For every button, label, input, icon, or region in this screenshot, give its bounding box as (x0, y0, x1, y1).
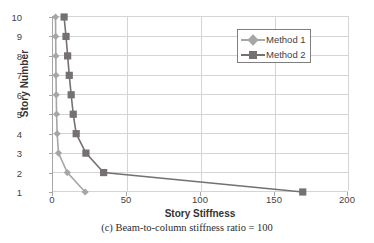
figure-caption: (c) Beam-to-column stiffness ratio = 100 (0, 222, 374, 233)
gridline-vertical (127, 16, 128, 191)
y-tick-label-3: 3 (0, 149, 22, 159)
x-axis-title: Story Stiffness (52, 208, 348, 219)
x-tick-label-0: 0 (32, 195, 72, 205)
x-tick-label-200: 200 (327, 195, 367, 205)
legend-entry-method-1[interactable]: Method 1 (241, 32, 307, 47)
legend-label-method-2: Method 2 (265, 50, 306, 60)
x-tick-label-150: 150 (254, 195, 294, 205)
square-marker-icon (241, 50, 265, 60)
x-tick-label-50: 50 (106, 195, 146, 205)
y-tick-label-6: 6 (0, 91, 22, 101)
x-tick-label-100: 100 (180, 195, 220, 205)
y-tick-label-1: 1 (0, 188, 22, 198)
gridline-vertical (348, 16, 349, 191)
y-tick-label-5: 5 (0, 110, 22, 120)
y-tick-label-7: 7 (0, 71, 22, 81)
legend-entry-method-2[interactable]: Method 2 (241, 47, 307, 62)
legend: Method 1 Method 2 (237, 29, 311, 63)
y-tick-label-9: 9 (0, 32, 22, 42)
y-tick-label-4: 4 (0, 130, 22, 140)
figure-chart-story-stiffness: Story Number 10 9 8 7 6 5 4 3 2 1 0 50 (0, 0, 374, 243)
gridline-vertical (201, 16, 202, 191)
diamond-marker-icon (241, 35, 265, 45)
legend-label-method-1: Method 1 (265, 35, 306, 45)
y-tick-label-10: 10 (0, 13, 22, 23)
y-tick-label-8: 8 (0, 52, 22, 62)
y-tick-label-2: 2 (0, 169, 22, 179)
